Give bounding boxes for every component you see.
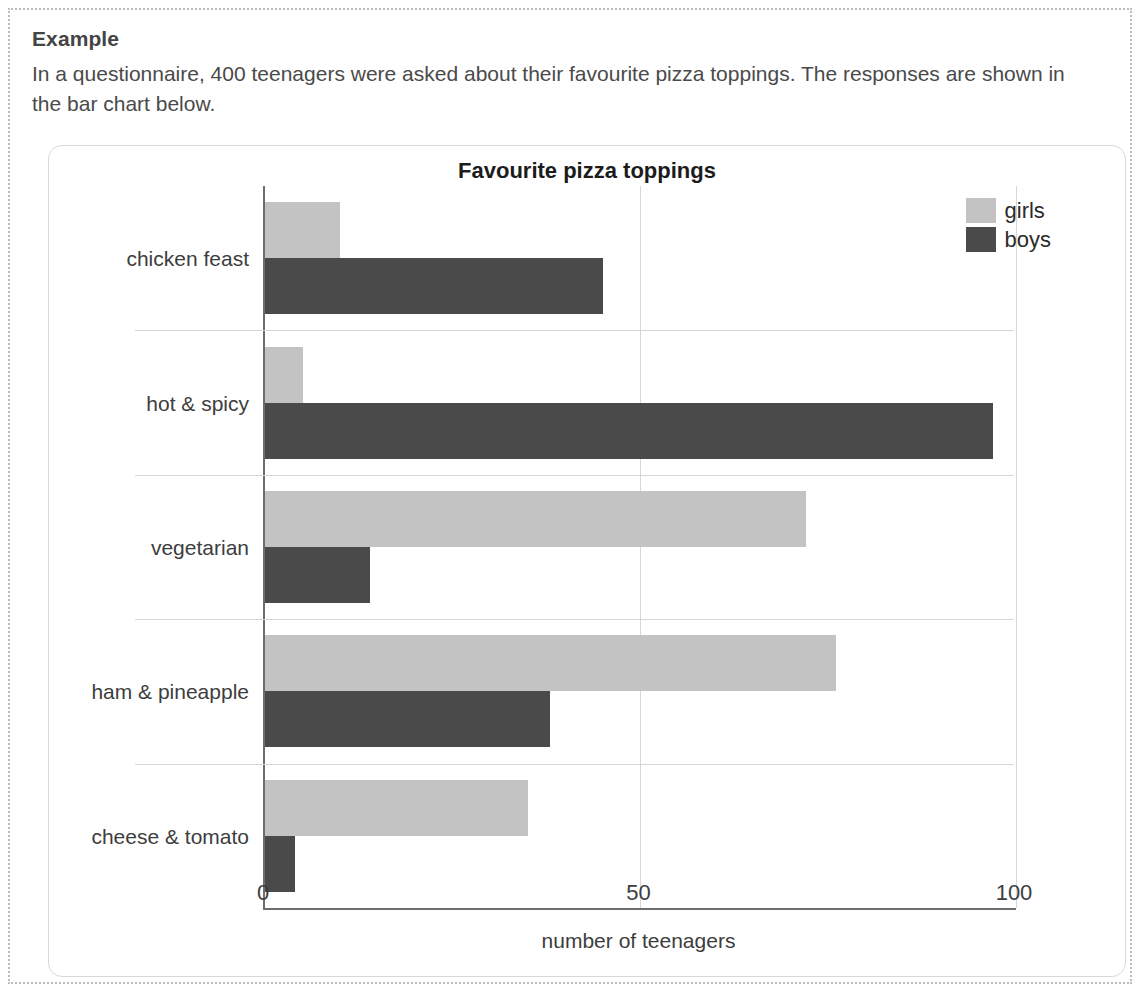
chart-plot-area: chicken feasthot & spicyvegetarianham & … <box>263 186 1016 910</box>
bar-boys <box>265 836 295 892</box>
example-frame: Example In a questionnaire, 400 teenager… <box>8 8 1132 984</box>
bar-group: vegetarian <box>265 475 1016 619</box>
x-axis-tick-label: 0 <box>257 880 269 906</box>
category-label: chicken feast <box>126 248 249 269</box>
bar-group: ham & pineapple <box>265 619 1016 763</box>
bar-boys <box>265 403 993 459</box>
bar-group: hot & spicy <box>265 330 1016 474</box>
x-axis-tick-label: 100 <box>996 880 1033 906</box>
x-axis-label: number of teenagers <box>263 929 1014 953</box>
bar-boys <box>265 258 603 314</box>
bar-girls <box>265 491 806 547</box>
example-description: In a questionnaire, 400 teenagers were a… <box>32 59 1072 119</box>
category-label: ham & pineapple <box>91 681 249 702</box>
example-text-block: Example In a questionnaire, 400 teenager… <box>32 26 1108 119</box>
chart-card: Favourite pizza toppings girls boys chic… <box>48 145 1126 977</box>
bar-group: chicken feast <box>265 186 1016 330</box>
example-heading: Example <box>32 26 1108 52</box>
bar-boys <box>265 691 550 747</box>
bar-girls <box>265 635 836 691</box>
category-label: hot & spicy <box>146 393 249 414</box>
bar-boys <box>265 547 370 603</box>
bar-girls <box>265 780 528 836</box>
bar-girls <box>265 347 303 403</box>
x-axis-tick-label: 50 <box>626 880 650 906</box>
category-label: vegetarian <box>151 537 249 558</box>
category-label: cheese & tomato <box>91 826 249 847</box>
bar-girls <box>265 202 340 258</box>
chart-title: Favourite pizza toppings <box>49 158 1125 184</box>
